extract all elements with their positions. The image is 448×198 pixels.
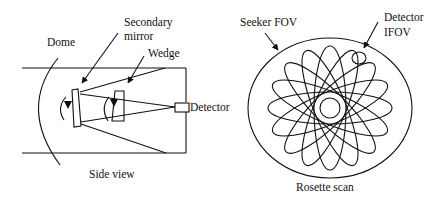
detector-box (175, 103, 189, 112)
figure: Secondary mirror Wedge Dome Detector Sid… (0, 0, 448, 198)
center-hole (320, 98, 340, 118)
rosette-scan-caption: Rosette scan (296, 181, 354, 193)
side-view-caption: Side view (89, 168, 135, 180)
detector-ifov-arrow-icon (364, 22, 378, 48)
secondary-mirror (72, 89, 81, 127)
secondary-mirror-label-2: mirror (124, 30, 154, 42)
secondary-mirror-arrow-icon (82, 33, 118, 83)
detector-label: Detector (190, 101, 230, 113)
wedge-label: Wedge (148, 47, 180, 60)
side-view-diagram: Secondary mirror Wedge Dome Detector Sid… (22, 16, 230, 180)
detector-ifov-label: Detector (384, 11, 424, 23)
rosette-petals (267, 45, 394, 172)
dome-arc (38, 58, 60, 165)
ray (81, 124, 166, 153)
dome-label: Dome (47, 36, 75, 48)
secondary-mirror-label: Secondary (124, 16, 173, 29)
detector-ifov-circle (352, 52, 366, 64)
ray (80, 94, 175, 107)
seeker-fov-ellipse (248, 38, 412, 178)
rosette-diagram: Seeker FOV Detector IFOV Rosette scan (240, 11, 424, 193)
rotation-arrow-icon (64, 101, 72, 109)
rotation-arc-icon (60, 97, 66, 120)
wedge-arrow-icon (128, 56, 144, 83)
ray (81, 107, 175, 122)
seeker-fov-label: Seeker FOV (240, 16, 298, 28)
rotation-arrow-icon (110, 99, 118, 107)
detector-ifov-label-2: IFOV (384, 26, 412, 38)
seeker-fov-arrow-icon (265, 33, 278, 50)
ray (80, 68, 165, 92)
